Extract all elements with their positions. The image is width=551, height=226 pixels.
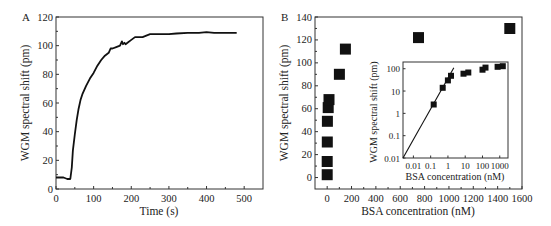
data-point [322,156,333,167]
x-tick-label: 200 [123,193,139,204]
y-tick-label: 40 [302,126,313,137]
x-tick-label: 400 [368,193,384,204]
panel-a-plot-frame [56,17,263,189]
inset-data-point [495,64,501,70]
data-point [322,137,333,148]
y-tick-label: 80 [302,80,313,91]
y-tick-label: 0 [307,172,312,183]
panel-a-label: A [22,11,30,23]
x-tick-label: 0.01 [406,161,422,171]
y-tick-label: 20 [302,149,313,160]
x-tick-label: 100 [86,193,102,204]
inset-data-point [431,102,437,108]
y-tick-label: 100 [296,57,312,68]
inset-data-point [500,63,506,69]
y-tick-label: 1 [396,109,401,119]
inset-data-point [483,65,489,71]
y-tick-label: 0.1 [389,131,400,141]
x-tick-label: 800 [417,193,433,204]
x-tick-label: 0 [53,193,58,204]
y-tick-label: 120 [296,34,312,45]
x-tick-label: 0.1 [425,161,436,171]
data-point [334,69,345,80]
panel-a-x-axis-label: Time (s) [140,205,179,218]
y-tick-label: 140 [296,12,312,23]
inset-plot-frame [403,62,508,158]
y-tick-label: 120 [37,12,53,23]
x-tick-label: 1000 [491,161,510,171]
x-tick-label: 1400 [487,193,508,204]
x-tick-label: 1000 [438,193,459,204]
x-tick-label: 600 [392,193,408,204]
inset-y-axis-label: WGM spectral shift (pm) [368,61,380,162]
y-tick-label: 0 [48,184,53,195]
data-point [504,23,515,34]
panel-a-y-axis-label: WGM spectral shift (pm) [19,45,32,162]
x-tick-label: 200 [344,193,360,204]
y-tick-label: 20 [43,155,54,166]
panel-b-inset: 0.010.11101001000 0.010.1110100 BSA conc… [368,61,509,183]
x-tick-label: 1200 [463,193,484,204]
panel-b-y-axis-label: WGM spectral shift (pm) [278,45,291,162]
x-tick-label: 1 [446,161,451,171]
x-tick-label: 500 [236,193,252,204]
x-tick-label: 0 [325,193,330,204]
data-point [324,94,335,105]
x-tick-label: 100 [476,161,490,171]
y-tick-label: 0.01 [384,154,400,164]
panel-b-x-axis-label: BSA concentration (nM) [361,205,475,218]
data-point [322,116,333,127]
data-point [322,169,333,180]
data-point [340,44,351,55]
panel-a: A 0100200300400500 020406080100120 Time … [19,11,263,218]
inset-y-ticks: 0.010.1110100 [384,64,405,163]
y-tick-label: 60 [302,103,313,114]
x-tick-label: 300 [161,193,177,204]
x-tick-label: 10 [461,161,471,171]
figure: A 0100200300400500 020406080100120 Time … [0,0,551,226]
inset-x-axis-label: BSA concentration (nM) [406,171,505,183]
y-tick-label: 60 [43,98,54,109]
y-tick-label: 100 [387,64,401,74]
y-tick-label: 100 [37,40,53,51]
x-tick-label: 1600 [512,193,533,204]
panel-a-series-line [56,32,237,179]
inset-data-point [440,85,446,91]
y-tick-label: 80 [43,69,54,80]
panel-b-label: B [281,11,288,23]
y-tick-label: 40 [43,126,54,137]
y-tick-label: 10 [391,87,401,97]
inset-data-point [448,73,454,79]
inset-data-point [465,70,471,76]
panel-b: B 02004006008001000120014001600 02040608… [278,11,533,218]
x-tick-label: 400 [199,193,215,204]
data-point [413,32,424,43]
